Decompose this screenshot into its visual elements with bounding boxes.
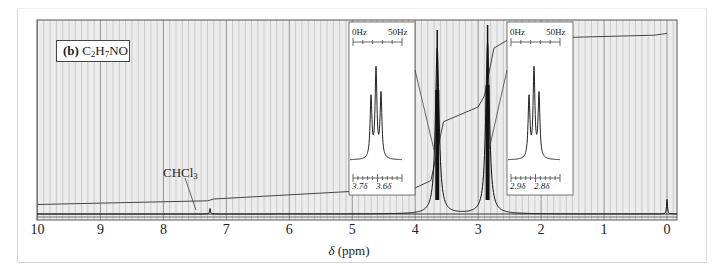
inset-1-hz-left: 0Hz xyxy=(352,27,367,37)
inset-1-ppm-right: 3.6δ xyxy=(376,181,391,191)
x-tick-label: 10 xyxy=(31,222,45,238)
inset-1-ppm-left: 3.7δ xyxy=(352,181,367,191)
x-tick-label: 1 xyxy=(601,222,608,238)
x-tick-label: 0 xyxy=(664,222,671,238)
compound-label: (b) C2H7NO xyxy=(56,40,130,62)
inset-1 xyxy=(349,22,415,195)
inset-2 xyxy=(507,22,573,195)
x-tick-label: 5 xyxy=(349,222,356,238)
x-tick-label: 7 xyxy=(223,222,230,238)
inset-2-hz-left: 0Hz xyxy=(510,27,525,37)
x-tick-label: 8 xyxy=(160,222,167,238)
x-tick-label: 3 xyxy=(475,222,482,238)
inset-2-hz-right: 50Hz xyxy=(546,27,566,37)
inset-2-ppm-right: 2.8δ xyxy=(534,181,549,191)
inset-2-ppm-left: 2.9δ xyxy=(510,181,525,191)
x-tick-label: 4 xyxy=(412,222,419,238)
x-axis-label: δ (ppm) xyxy=(328,243,369,259)
chcl3-label: CHCl3 xyxy=(163,165,198,181)
x-tick-label: 9 xyxy=(97,222,104,238)
inset-1-hz-right: 50Hz xyxy=(388,27,408,37)
x-tick-label: 2 xyxy=(538,222,545,238)
x-tick-label: 6 xyxy=(286,222,293,238)
